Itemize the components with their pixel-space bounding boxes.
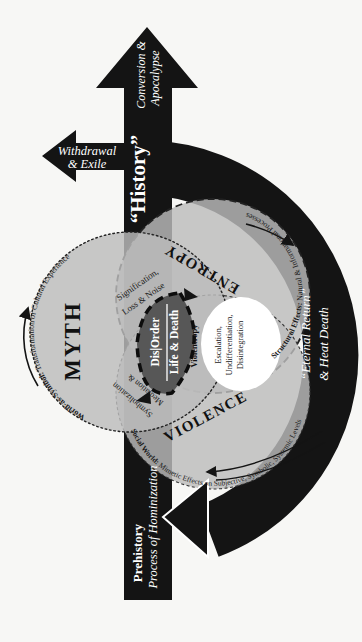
prehistory-label: Prehistory	[130, 523, 145, 582]
history-label: “History”	[126, 135, 150, 224]
withdrawal-label-line1: Withdrawal	[58, 144, 117, 158]
myth-label: MYTH	[60, 301, 85, 381]
hominization-label: Process of Hominization	[146, 465, 160, 589]
disorder-label: Dis|Order	[149, 317, 162, 366]
escalation-label-line1: Escalation,	[213, 326, 223, 364]
conversion-label-line1: Conversion &	[134, 41, 148, 109]
conversion-label-line2: Apocalypse	[148, 50, 162, 107]
life-death-label: Life & Death	[168, 309, 180, 374]
withdrawal-label-line2: & Exile	[68, 157, 107, 171]
violentropy-label: Violentropy	[189, 324, 199, 368]
history-violence-entropy-diagram: “History” Conversion & Apocalypse Withdr…	[0, 0, 362, 642]
escalation-label-line2: Undifferentiation,	[224, 315, 234, 376]
eternal-return-label-line2: & Heat Death	[316, 307, 331, 381]
escalation-label-line3: Disintegration	[235, 320, 245, 369]
